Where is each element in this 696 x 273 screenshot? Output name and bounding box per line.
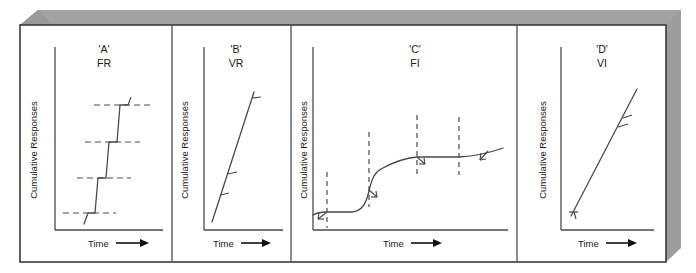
panel-vi-letter: 'D' — [596, 43, 608, 55]
panel-vr-schedule: VR — [229, 57, 244, 69]
panel-fr-y-axis-label: Cumulative Responses — [28, 101, 39, 199]
panel-vr-y-axis-label: Cumulative Responses — [179, 101, 190, 199]
box-right-bevel — [666, 10, 681, 262]
panel-fi-x-axis-label: Time — [383, 238, 404, 249]
figure-canvas: Cumulative Responses 'A' FR Time — [0, 0, 696, 273]
panel-fi-schedule: FI — [410, 57, 419, 69]
panel-fr-x-axis-label: Time — [88, 238, 109, 249]
panel-vi-y-axis-label: Cumulative Responses — [537, 101, 548, 199]
panel-vi-x-axis-label: Time — [578, 238, 599, 249]
panel-fr-letter: 'A' — [98, 43, 109, 55]
panel-fi-letter: 'C' — [409, 43, 421, 55]
panel-fi-y-axis-label: Cumulative Responses — [298, 101, 309, 199]
panel-fr-schedule: FR — [97, 57, 111, 69]
panel-vr-x-axis-label: Time — [213, 238, 234, 249]
box-top-bevel-wedge — [38, 10, 681, 25]
cumulative-records-figure: Cumulative Responses 'A' FR Time — [0, 0, 696, 273]
panel-vi-schedule: VI — [597, 57, 607, 69]
box-face — [20, 25, 666, 262]
panel-vr-letter: 'B' — [230, 43, 241, 55]
